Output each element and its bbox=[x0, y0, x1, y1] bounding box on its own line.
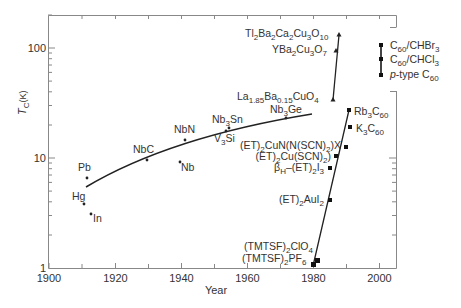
label-et-aui2: (ET)2AuI2 bbox=[279, 193, 325, 208]
label-k3c60: K3C60 bbox=[356, 122, 385, 137]
label-in: In bbox=[93, 212, 102, 224]
point-c60-p bbox=[379, 73, 383, 77]
y-tick-100: 100 bbox=[28, 42, 46, 54]
point-hg bbox=[83, 203, 86, 206]
point-pb bbox=[86, 177, 89, 180]
label-nbc: NbC bbox=[133, 143, 154, 155]
x-tick-2000: 2000 bbox=[367, 272, 391, 284]
y-tick-10: 10 bbox=[34, 152, 46, 164]
y-tick-1: 1 bbox=[40, 262, 46, 274]
point-aui2 bbox=[328, 198, 332, 202]
label-c60-chbr3: C60/CHBr3 bbox=[390, 39, 440, 54]
point-cun bbox=[344, 145, 348, 149]
label-ybco: YBa2Cu3O7 bbox=[272, 43, 327, 58]
label-pb: Pb bbox=[78, 161, 91, 173]
point-la bbox=[331, 97, 336, 102]
label-c60-p-type: p-type C60 bbox=[389, 68, 439, 83]
point-k3c60 bbox=[348, 125, 352, 129]
label-hg: Hg bbox=[72, 190, 86, 202]
label-nbn: NbN bbox=[174, 123, 195, 135]
label-c60-chcl3: C60/CHCl3 bbox=[390, 53, 440, 68]
label-la: La1.85Ba0.15CuO4 bbox=[237, 90, 319, 105]
label-beta-et: βH–(ET)2I3 bbox=[274, 161, 324, 176]
point-cuscn bbox=[334, 154, 338, 158]
y-axis-title: TC(K) bbox=[16, 90, 31, 115]
x-tick-1920: 1920 bbox=[103, 272, 127, 284]
x-tick-1980: 1980 bbox=[301, 272, 325, 284]
point-c60-chbr3 bbox=[379, 43, 383, 47]
point-c60-chcl3 bbox=[379, 57, 383, 61]
label-tl: Tl2Ba2Ca2Cu3O10 bbox=[245, 27, 329, 42]
x-axis-title: Year bbox=[205, 284, 228, 296]
point-tl bbox=[337, 32, 342, 37]
point-nbc bbox=[146, 159, 149, 162]
y-ticks bbox=[48, 15, 396, 235]
label-pf6: (TMTSF)2PF6 bbox=[242, 252, 307, 267]
point-beta bbox=[328, 166, 332, 170]
point-nbn bbox=[184, 139, 187, 142]
label-v3si: V3Si bbox=[214, 132, 235, 147]
x-tick-labels: 1900 1920 1940 1960 1980 2000 bbox=[37, 272, 392, 284]
chart: 1900 1920 1940 1960 1980 2000 1 10 100 Y… bbox=[0, 0, 461, 308]
y-tick-labels: 1 10 100 bbox=[28, 42, 46, 274]
point-labels: Hg Pb In NbC Nb NbN V3Si Nb3Sn Nb3Ge La1… bbox=[72, 27, 440, 267]
x-tick-1960: 1960 bbox=[235, 272, 259, 284]
x-tick-1940: 1940 bbox=[169, 272, 193, 284]
label-rb3c60: Rb3C60 bbox=[354, 105, 389, 120]
cuprate-trend-line bbox=[333, 35, 339, 100]
point-clo4 bbox=[315, 258, 320, 263]
organic-trend-line bbox=[313, 110, 349, 266]
point-in bbox=[90, 213, 93, 216]
label-nb: Nb bbox=[181, 161, 195, 173]
label-nb3sn: Nb3Sn bbox=[212, 113, 243, 128]
point-rb3c60 bbox=[347, 108, 351, 112]
